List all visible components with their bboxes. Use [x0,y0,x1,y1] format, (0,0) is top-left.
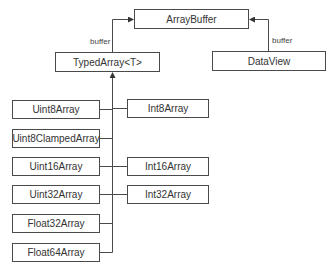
node-typed-array: TypedArray<T> [55,52,160,72]
node-float64-array: Float64Array [12,243,100,262]
node-uint8-array: Uint8Array [12,100,100,119]
node-array-buffer: ArrayBuffer [134,9,249,29]
edge-label-typed-buffer: buffer [90,37,110,46]
node-uint16-array: Uint16Array [12,157,100,176]
node-int32-array: Int32Array [127,185,209,204]
node-uint8-clamped-array: Uint8ClampedArray [12,129,100,148]
node-float32-array: Float32Array [12,214,100,233]
node-uint32-array: Uint32Array [12,185,100,204]
node-data-view: DataView [212,51,326,71]
node-int8-array: Int8Array [127,99,209,118]
node-int16-array: Int16Array [127,157,209,176]
edge-label-dataview-buffer: buffer [272,36,292,45]
